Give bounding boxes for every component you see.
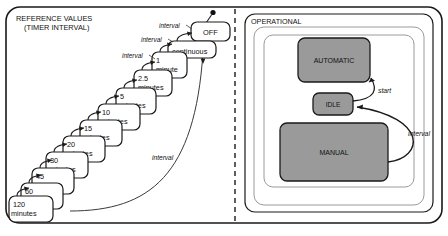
operational-region-title: OPERATIONAL bbox=[251, 17, 302, 26]
interval-transition-label: interval bbox=[408, 130, 430, 137]
state-manual[interactable]: MANUAL bbox=[280, 123, 388, 181]
interval-label-main: interval bbox=[152, 154, 174, 161]
step-value: 5 bbox=[120, 92, 124, 101]
state-idle-label: IDLE bbox=[326, 101, 341, 108]
interval-label-1: interval bbox=[159, 22, 180, 29]
reference-region-title: REFERENCE VALUES bbox=[16, 14, 92, 23]
step-value: 120 bbox=[13, 200, 25, 209]
reference-region-subtitle: (TIMER INTERVAL) bbox=[24, 23, 89, 32]
state-automatic[interactable]: AUTOMATIC bbox=[298, 38, 370, 82]
step-value: 15 bbox=[84, 124, 92, 133]
state-idle[interactable]: IDLE bbox=[313, 93, 353, 115]
interval-label-3: interval bbox=[122, 52, 143, 59]
step-value: 20 bbox=[67, 140, 75, 149]
statechart-diagram: REFERENCE VALUES (TIMER INTERVAL) interv… bbox=[0, 0, 448, 236]
step-unit: minutes bbox=[11, 209, 37, 218]
step-value: 10 bbox=[102, 108, 110, 117]
start-transition-label: start bbox=[378, 87, 392, 94]
initial-state-dot bbox=[210, 10, 215, 15]
state-manual-label: MANUAL bbox=[319, 149, 348, 156]
step-value: 2.5 bbox=[138, 74, 148, 83]
state-off-label: OFF bbox=[203, 28, 218, 37]
interval-label-2: interval bbox=[141, 36, 162, 43]
state-step-120-minutes[interactable]: 120 minutes bbox=[9, 196, 53, 222]
diagram-canvas: REFERENCE VALUES (TIMER INTERVAL) interv… bbox=[0, 0, 448, 236]
state-automatic-label: AUTOMATIC bbox=[314, 57, 355, 64]
step-value: 1 bbox=[156, 56, 160, 65]
state-off[interactable]: OFF bbox=[191, 22, 230, 41]
